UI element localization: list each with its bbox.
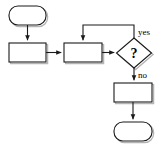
decision-node-label: ? bbox=[131, 46, 138, 61]
end-node[interactable] bbox=[114, 122, 152, 141]
edge-label-no: no bbox=[138, 70, 148, 80]
flowchart-canvas: ? yes no bbox=[0, 0, 160, 145]
process-1-node[interactable] bbox=[9, 43, 46, 62]
process-2-node[interactable] bbox=[64, 43, 102, 62]
start-node[interactable] bbox=[9, 6, 46, 25]
edge-label-yes: yes bbox=[138, 27, 150, 37]
flow-connectors bbox=[28, 25, 135, 119]
flowchart-diagram: ? yes no bbox=[0, 0, 160, 145]
edge-decision-yes-loop bbox=[83, 25, 134, 40]
process-3-node[interactable] bbox=[114, 83, 152, 102]
